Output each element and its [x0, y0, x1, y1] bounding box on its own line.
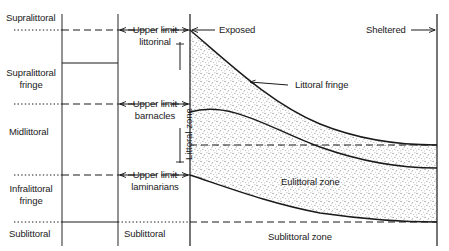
limit-label-barnacles: Upper limit barnacles — [122, 98, 188, 121]
zone-label-midlittoral: Midlittoral — [9, 126, 49, 138]
zone-label-supralittoral-fringe: Supralittoral fringe — [2, 67, 60, 90]
axis-label-sheltered: Sheltered — [366, 24, 406, 36]
plot-label-sublittoral-zone: Sublittoral zone — [268, 231, 332, 243]
diagram-canvas — [0, 0, 449, 251]
zone-label-infralittoral-fringe: Infralittoral fringe — [2, 183, 60, 206]
limit-label-laminarians: Upper limit laminarians — [122, 169, 188, 192]
axis-label-exposed: Exposed — [219, 24, 255, 36]
zone-label-sublittoral: Sublittoral — [9, 228, 50, 240]
plot-label-eulittoral-zone: Eulittoral zone — [281, 176, 340, 188]
plot-label-littoral-fringe: Littoral fringe — [295, 79, 348, 91]
shore-zonation-diagram: Supralittoral Supralittoral fringe Midli… — [0, 0, 449, 251]
stippled-bands — [190, 30, 437, 222]
limit-label-littorinal: Upper limit littorinal — [122, 24, 188, 47]
axis-label-littoral-zone: Littoral zone — [183, 108, 194, 160]
zone-label-supralittoral: Supralittoral — [6, 12, 55, 24]
limit-label-sublittoral: Sublittoral — [124, 228, 165, 240]
